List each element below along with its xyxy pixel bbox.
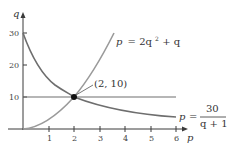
chart: q p 10 20 30 1 2 3 4 5 6 (2, 10) p = 2q … xyxy=(0,0,234,150)
point-leader-line xyxy=(76,85,93,95)
y-tick-label: 30 xyxy=(9,29,19,38)
y-tick-label: 10 xyxy=(9,93,19,102)
supply-eq-exp: 2 xyxy=(155,35,159,42)
x-tick-label: 6 xyxy=(174,134,179,143)
supply-eq-rhs: = 2q xyxy=(128,36,153,47)
point-label: (2, 10) xyxy=(94,78,127,89)
x-tick-label: 5 xyxy=(149,134,154,143)
demand-eq-denominator: q + 1 xyxy=(200,118,228,129)
demand-eq-p: p xyxy=(179,111,186,122)
x-tick-label: 1 xyxy=(47,134,52,143)
demand-eq-numerator: 30 xyxy=(206,103,219,114)
demand-eq-equals: = xyxy=(189,111,197,122)
supply-eq-tail: + q xyxy=(162,36,181,47)
x-tick-label: 4 xyxy=(123,134,128,143)
y-axis-label: q xyxy=(13,8,19,19)
supply-eq-p: p xyxy=(116,36,123,47)
y-axis-arrow-icon xyxy=(21,12,26,18)
y-tick-label: 20 xyxy=(9,61,19,70)
supply-equation: p = 2q 2 + q xyxy=(116,32,181,47)
x-axis-label: p xyxy=(187,132,194,143)
x-axis-arrow-icon xyxy=(182,127,188,132)
x-tick-label: 2 xyxy=(72,134,77,143)
x-tick-label: 3 xyxy=(98,134,103,143)
